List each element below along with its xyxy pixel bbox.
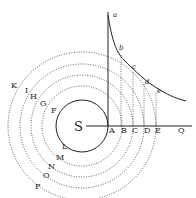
- curve-abcde: [108, 15, 186, 101]
- label-A: A: [108, 126, 115, 135]
- label-e: e: [157, 87, 161, 95]
- label-M: M: [56, 153, 64, 162]
- label-c: c: [132, 63, 136, 71]
- diagram-canvas: S A B C D E Q K I H G F L M N O P a b c …: [0, 0, 196, 198]
- geometric-diagram: S A B C D E Q K I H G F L M N O P a b c …: [0, 0, 196, 198]
- ordinates: [121, 55, 156, 126]
- label-d: d: [145, 78, 150, 86]
- label-Q: Q: [178, 126, 185, 135]
- label-E: E: [155, 126, 161, 135]
- label-O: O: [43, 171, 50, 180]
- label-I: I: [25, 86, 28, 95]
- label-C: C: [132, 126, 138, 135]
- label-H: H: [30, 92, 37, 101]
- label-N: N: [48, 162, 55, 171]
- label-F: F: [51, 106, 57, 115]
- label-K: K: [11, 81, 18, 90]
- label-B: B: [121, 126, 127, 135]
- label-a: a: [113, 11, 117, 19]
- label-G: G: [40, 99, 46, 108]
- label-D: D: [144, 126, 150, 135]
- label-P: P: [35, 182, 41, 191]
- label-b: b: [119, 44, 124, 52]
- label-S: S: [74, 119, 83, 134]
- label-L: L: [62, 142, 68, 151]
